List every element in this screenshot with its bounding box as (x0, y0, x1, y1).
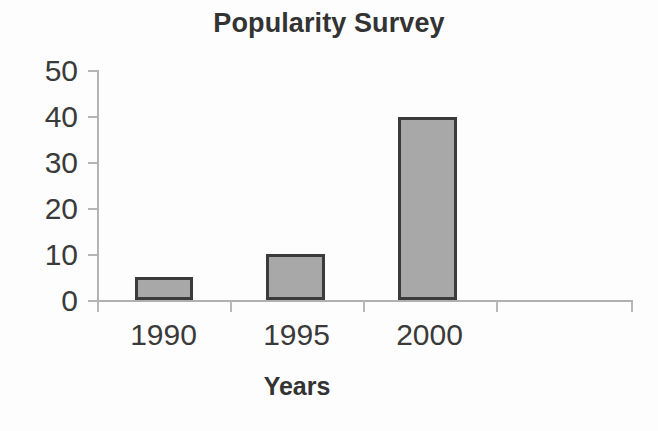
y-axis-tick (88, 254, 99, 256)
x-axis-tick (230, 301, 232, 312)
x-axis-category-label-1995: 1995 (230, 318, 363, 352)
y-axis-tick (88, 162, 99, 164)
bar-chart-figure: Popularity Survey 50 40 30 20 10 0 1990 … (0, 0, 658, 431)
chart-title: Popularity Survey (0, 8, 658, 39)
bar-2000 (398, 117, 457, 300)
y-axis-tick-label: 30 (14, 148, 78, 178)
x-axis-title: Years (97, 372, 497, 401)
y-axis-tick-label: 20 (14, 194, 78, 224)
bar-1990 (135, 277, 193, 300)
y-axis-tick-labels: 50 40 30 20 10 0 (14, 0, 78, 431)
bar-1995 (266, 254, 325, 300)
x-axis-tick (97, 301, 99, 312)
y-axis-tick-label: 40 (14, 102, 78, 132)
x-axis-tick (496, 301, 498, 312)
x-axis-category-label-1990: 1990 (97, 318, 230, 352)
y-axis-line (97, 70, 99, 301)
y-axis-tick (88, 116, 99, 118)
x-axis-line (97, 300, 633, 302)
y-axis-tick (88, 208, 99, 210)
y-axis-tick-label: 50 (14, 56, 78, 86)
y-axis-tick (88, 70, 99, 72)
x-axis-category-label-2000: 2000 (363, 318, 496, 352)
x-axis-tick (631, 301, 633, 312)
y-axis-tick-label: 0 (14, 286, 78, 316)
x-axis-tick (363, 301, 365, 312)
y-axis-tick-label: 10 (14, 240, 78, 270)
